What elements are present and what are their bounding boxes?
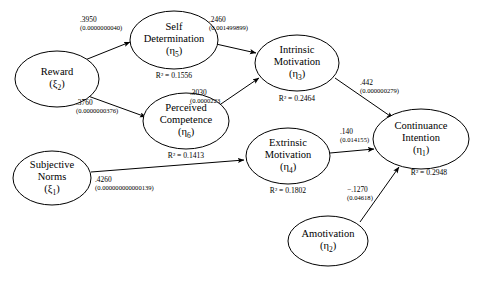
path-coefficient: .2460 — [209, 15, 226, 24]
node-r-squared: R² = 0.1556 — [156, 71, 193, 80]
path-coefficient: .442 — [360, 78, 373, 87]
path-coefficient: .3760 — [76, 98, 93, 107]
node-label: Self — [166, 21, 183, 32]
path-p-value: (0.000000279) — [360, 87, 399, 95]
node-label: Perceived — [165, 102, 207, 113]
node-label: Intrinsic — [280, 44, 315, 55]
node-r-squared: R² = 0.2464 — [279, 94, 316, 103]
path-p-value: (0.001499899) — [209, 24, 248, 32]
node-label: Extrinsic — [269, 137, 307, 148]
node-label: Reward — [41, 66, 74, 77]
node-label: Intention — [402, 132, 441, 143]
path-subjective-norms-to-extrinsic-motivation — [91, 160, 244, 172]
node-label: Motivation — [265, 149, 312, 160]
path-arrow — [91, 160, 244, 172]
path-perceived-competence-to-intrinsic-motivation — [218, 78, 259, 106]
node-label: Subjective — [30, 159, 75, 170]
node-label: Determination — [144, 33, 205, 44]
path-arrow — [85, 42, 130, 60]
path-arrow — [218, 78, 259, 106]
path-p-value: (0.000000000000139) — [95, 184, 154, 192]
path-p-value: (0.04618) — [347, 194, 373, 202]
node-label: Amotivation — [301, 228, 355, 239]
node-label: Motivation — [274, 56, 321, 67]
diagram-canvas: .3950(0.0000000040).3760(0.0000000376).2… — [0, 0, 478, 286]
path-extrinsic-motivation-to-continuance-intention — [330, 149, 374, 153]
path-coefficient: .140 — [340, 127, 353, 136]
path-arrow — [330, 149, 374, 153]
sem-diagram: .3950(0.0000000040).3760(0.0000000376).2… — [0, 0, 478, 286]
path-p-value: (0.0000000376) — [76, 107, 118, 115]
path-coefficient: .4260 — [95, 175, 112, 184]
path-p-value: (0.014155) — [340, 136, 369, 144]
node-r-squared: R² = 0.1802 — [270, 186, 307, 195]
node-label: Norms — [38, 171, 67, 182]
path-arrow — [216, 44, 256, 53]
path-reward-to-self-determination — [85, 42, 130, 60]
node-label: Continuance — [394, 120, 447, 131]
node-label: Competence — [160, 114, 213, 125]
path-self-determination-to-intrinsic-motivation — [216, 44, 256, 53]
path-coefficient: −.1270 — [347, 185, 368, 194]
path-p-value: (0.0000000040) — [80, 24, 122, 32]
path-coefficient: .3950 — [80, 15, 97, 24]
node-r-squared: R² = 0.2948 — [411, 168, 448, 177]
path-coefficient: .3030 — [190, 88, 207, 97]
node-r-squared: R² = 0.1413 — [168, 151, 205, 160]
